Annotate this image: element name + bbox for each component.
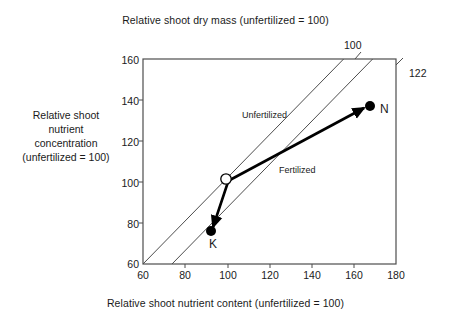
arrow-to-N (228, 108, 364, 181)
plot-canvas (0, 0, 451, 327)
data-points (206, 101, 375, 236)
iso-line-fertilized (172, 29, 402, 264)
response-arrows (213, 108, 364, 227)
iso-line-unfertilized-leader (355, 52, 361, 59)
iso-line-unfertilized (143, 30, 372, 264)
data-point-K[interactable] (206, 226, 216, 236)
data-point-origin[interactable] (221, 174, 231, 184)
chart-figure: Relative shoot dry mass (unfertilized = … (0, 0, 451, 327)
iso-line-fertilized-leader (396, 58, 403, 65)
data-point-N[interactable] (365, 101, 375, 111)
axis-frame (139, 59, 396, 268)
iso-lines (143, 29, 403, 264)
arrow-to-K (213, 182, 228, 227)
chart-bottom-title: Relative shoot nutrient content (unferti… (0, 297, 451, 309)
plot-border (143, 59, 396, 264)
